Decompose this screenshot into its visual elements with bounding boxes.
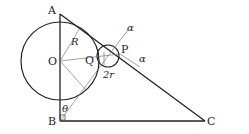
label-O: O	[48, 55, 57, 68]
label-P: P	[121, 43, 129, 56]
label-alpha-2: α	[139, 53, 146, 64]
label-Q: Q	[85, 54, 94, 67]
label-2r: 2r	[102, 69, 115, 80]
label-theta: θ	[62, 103, 68, 114]
geometry-diagram: A B C O P Q R 2r α α θ	[0, 0, 249, 134]
label-B: B	[48, 115, 56, 128]
label-C: C	[207, 115, 215, 128]
radius-lower	[60, 61, 86, 90]
label-alpha-1: α	[127, 22, 134, 33]
label-R: R	[70, 36, 79, 47]
label-A: A	[47, 4, 57, 17]
